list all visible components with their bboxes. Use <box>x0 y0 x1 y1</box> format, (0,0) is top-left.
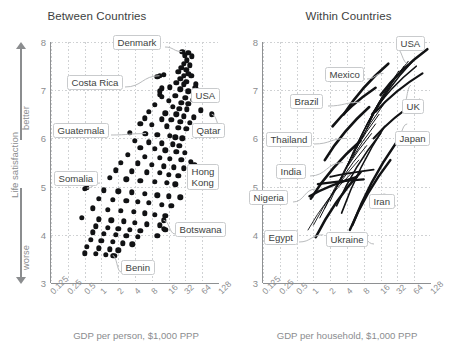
callout-benin: Benin <box>121 260 155 275</box>
y-tick-3-right: 3 <box>238 278 258 289</box>
leader-line <box>299 235 323 242</box>
y-tick-3: 3 <box>26 278 46 289</box>
leader-line <box>367 73 383 79</box>
x-tick-64: 64 <box>199 282 213 296</box>
better-arrow-label: better <box>21 106 31 130</box>
panel-within-countries: Within Countries 8 7 6 5 4 3 USAMexicoUK… <box>228 0 457 330</box>
leader-line <box>113 256 121 272</box>
panel-between-countries: Between Countries Life satisfaction bett… <box>0 0 230 330</box>
x-tick-1: 1 <box>98 286 108 296</box>
leader-line <box>314 138 347 144</box>
x-tick-8: 8 <box>361 286 371 296</box>
callout-hong-kong: Hong Kong <box>187 164 219 190</box>
callout-japan: Japan <box>395 131 430 146</box>
callout-thailand: Thailand <box>266 132 312 147</box>
leader-line <box>111 134 146 135</box>
x-tick-1: 1 <box>310 286 320 296</box>
leader-line <box>310 163 343 177</box>
callout-mexico: Mexico <box>325 67 364 82</box>
x-tick-16: 16 <box>378 282 392 296</box>
x-tick-8: 8 <box>149 286 159 296</box>
figure-root: Between Countries Life satisfaction bett… <box>0 0 457 352</box>
y-tick-5: 5 <box>26 181 46 192</box>
leader-line <box>165 47 182 52</box>
callout-india: India <box>276 164 306 179</box>
y-tick-7: 7 <box>26 85 46 96</box>
y-tick-8-right: 8 <box>238 37 258 48</box>
callout-usa: USA <box>191 88 220 103</box>
y-tick-6: 6 <box>26 133 46 144</box>
callout-uk: UK <box>402 99 424 114</box>
x-tick-16: 16 <box>166 282 180 296</box>
x-axis-label-left: GDP per person, $1,000 PPP <box>46 330 226 341</box>
x-axis-label-right: GDP per household, $1,000 PPP <box>254 330 440 341</box>
callout-nigeria: Nigeria <box>249 190 288 205</box>
x-tick-2: 2 <box>115 286 125 296</box>
callout-denmark: Denmark <box>113 35 161 50</box>
callout-brazil: Brazil <box>290 94 323 109</box>
x-tick-32: 32 <box>394 282 408 296</box>
callout-guatemala: Guatemala <box>53 123 109 138</box>
leader-line <box>164 220 175 234</box>
y-tick-7-right: 7 <box>238 85 258 96</box>
y-tick-8: 8 <box>26 37 46 48</box>
x-tick-4: 4 <box>132 286 142 296</box>
panel-title-right: Within Countries <box>234 10 457 22</box>
plot-area-right: USAMexicoUKBrazilJapanThailandIndiaNiger… <box>262 42 431 283</box>
leader-line <box>328 102 361 106</box>
panel-title-left: Between Countries <box>0 10 212 22</box>
callout-somalia: Somalia <box>54 171 98 186</box>
callout-qatar: Qatar <box>192 123 225 138</box>
y-tick-4-right: 4 <box>238 229 258 240</box>
worse-arrow-label: worse <box>21 245 31 270</box>
x-tick-4: 4 <box>344 286 354 296</box>
callout-botswana: Botswana <box>175 222 226 237</box>
callout-costa-rica: Costa Rica <box>67 75 123 90</box>
x-tick-2: 2 <box>327 286 337 296</box>
callout-usa: USA <box>396 36 425 51</box>
x-tick-32: 32 <box>182 282 196 296</box>
leader-line <box>125 76 160 87</box>
callout-egypt: Egypt <box>264 230 298 245</box>
callout-ukraine: Ukraine <box>326 232 368 247</box>
callout-iran: Iran <box>369 194 395 209</box>
x-tick-64: 64 <box>411 282 425 296</box>
y-tick-6-right: 6 <box>238 133 258 144</box>
plot-area-left: DenmarkCosta RicaUSAGuatemalaQatarSomali… <box>50 42 219 283</box>
y-tick-4: 4 <box>26 229 46 240</box>
leader-line <box>293 189 316 202</box>
